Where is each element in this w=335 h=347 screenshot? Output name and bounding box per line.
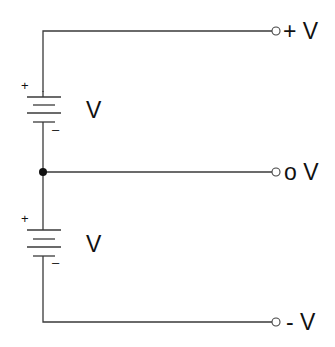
battery-upper-voltage-label: V [86,97,102,123]
junction-dot [39,168,47,176]
battery-upper-plus-sign: + [21,78,29,93]
battery-lower-plus-sign: + [21,211,29,226]
bottom-wire [43,256,272,322]
terminal-zero-circle [272,168,280,176]
terminal-negative: - V [272,309,316,335]
terminal-negative-label: - V [286,309,316,335]
terminal-positive-label: + V [283,18,319,44]
top-wire [43,31,272,92]
battery-lower-voltage-label: V [86,231,102,257]
split-supply-circuit-diagram: + – V + – V + V o V - V [0,0,335,347]
terminal-zero-label: o V [284,159,319,185]
terminal-positive-circle [272,27,280,35]
terminal-negative-circle [272,318,280,326]
battery-upper-minus-sign: – [52,122,60,137]
battery-upper: + – V [21,78,102,137]
battery-lower: + – V [21,211,102,270]
terminal-zero: o V [272,159,319,185]
terminal-positive: + V [272,18,319,44]
battery-lower-minus-sign: – [52,255,60,270]
